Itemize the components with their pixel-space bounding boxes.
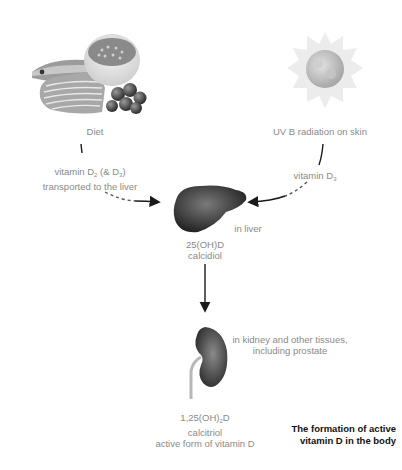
diet-to-liver-arrow (105, 192, 135, 201)
kidney-icon (185, 325, 230, 400)
kidney-location-label: in kidney and other tissues, including p… (225, 334, 355, 356)
diagram-caption: The formation of active vitamin D in the… (291, 423, 396, 446)
liver-compound-label: 25(OH)D calcidiol (170, 239, 240, 261)
diet-connector (81, 144, 82, 153)
sun-connector (319, 144, 323, 165)
kidney-compound-label: 1,25(OH)2D calcitriol active form of vit… (150, 412, 260, 449)
liver-location-label: in liver (228, 223, 268, 234)
sun-to-liver-arrow (285, 182, 307, 196)
